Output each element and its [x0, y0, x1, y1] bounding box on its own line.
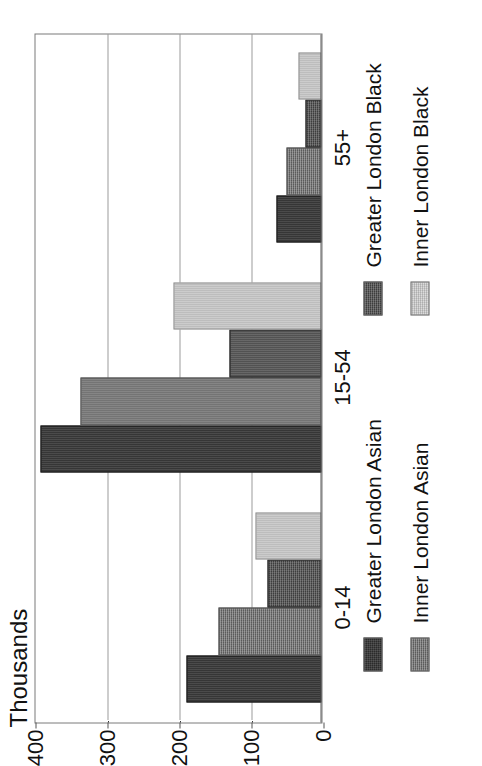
value-tick-label-200: 200 — [168, 729, 190, 766]
bar-15-54-greater-london-black — [229, 329, 321, 377]
legend-label: Inner London Asian — [409, 442, 430, 623]
legend-label: Inner London Black — [409, 86, 430, 267]
plot-inner — [35, 34, 321, 722]
legend-label: Greater London Black — [362, 63, 383, 267]
value-tick-400 — [35, 722, 36, 728]
value-tick-100 — [251, 722, 252, 728]
category-label-0-14: 0-14 — [331, 585, 353, 629]
bar-55plus-greater-london-black — [305, 99, 321, 147]
value-tick-0 — [323, 722, 324, 728]
legend-block-asian: Greater London AsianInner London Asian — [362, 419, 430, 671]
bar-15-54-greater-london-asian — [40, 425, 321, 473]
legend-item-inner-london-asian[interactable]: Inner London Asian — [409, 419, 430, 671]
value-tick-label-300: 300 — [96, 729, 118, 766]
bar-55plus-inner-london-asian — [286, 147, 321, 195]
legend-swatch-icon-gl-black — [363, 281, 382, 315]
category-label-55plus: 55+ — [331, 128, 353, 165]
legend-item-greater-london-asian[interactable]: Greater London Asian — [362, 419, 383, 671]
plot-area: 01002003004000-1415-5455+ — [34, 33, 322, 723]
legend-swatch-icon-gl-asian — [363, 637, 382, 671]
category-label-15-54: 15-54 — [331, 349, 353, 405]
value-tick-label-100: 100 — [240, 729, 262, 766]
bar-55plus-greater-london-asian — [276, 195, 321, 243]
bar-0-14-inner-london-black — [255, 512, 321, 560]
legend-block-black: Greater London BlackInner London Black — [362, 63, 430, 315]
bar-15-54-inner-london-black — [173, 282, 321, 330]
bar-15-54-inner-london-asian — [80, 377, 321, 425]
value-tick-label-400: 400 — [24, 729, 46, 766]
legend-item-inner-london-black[interactable]: Inner London Black — [409, 63, 430, 315]
zero-baseline — [320, 34, 321, 722]
value-tick-300 — [107, 722, 108, 728]
legend-label: Greater London Asian — [362, 419, 383, 623]
legend-item-greater-london-black[interactable]: Greater London Black — [362, 63, 383, 315]
value-axis-title: Thousands — [6, 608, 30, 727]
bar-55plus-inner-london-black — [298, 52, 321, 100]
legend-swatch-icon-il-asian — [410, 637, 429, 671]
bar-0-14-greater-london-black — [267, 559, 321, 607]
value-tick-label-0: 0 — [312, 729, 334, 741]
bar-0-14-inner-london-asian — [218, 607, 321, 655]
legend-swatch-icon-il-black — [410, 281, 429, 315]
value-tick-200 — [179, 722, 180, 728]
bar-0-14-greater-london-asian — [186, 655, 321, 703]
